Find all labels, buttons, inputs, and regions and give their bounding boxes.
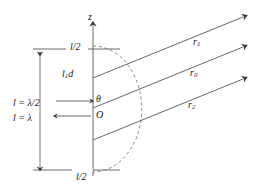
figure-canvas: [0, 0, 259, 185]
z-axis-label: z: [88, 12, 92, 22]
ray-middle-label: r0: [190, 68, 197, 78]
ray-lines-group: [93, 17, 243, 140]
ray-lower-label: r2: [188, 100, 195, 110]
element-length-label: l1d: [62, 69, 73, 79]
ray-lower-line: [93, 79, 243, 140]
dimension-label-full-wavelength: l = λ: [13, 113, 32, 123]
antenna-geometry-figure: z l/2 l/2 l1d θ O l = λ/2 l = λ r1 r0 r2: [0, 0, 259, 185]
top-half-length-label: l/2: [70, 42, 81, 52]
bottom-half-length-label: l/2: [76, 172, 87, 182]
theta-angle-label: θ: [96, 94, 101, 104]
ray-upper-label: r1: [193, 37, 200, 47]
origin-label: O: [96, 110, 103, 120]
ray-lower-sub: 2: [192, 103, 195, 110]
ray-middle-sub: 0: [194, 71, 197, 78]
ray-middle-line: [93, 47, 243, 108]
ray-upper-sub: 1: [197, 40, 200, 47]
dimension-label-half-wavelength: l = λ/2: [13, 98, 40, 108]
tick-marks-group: [33, 49, 120, 170]
element-length-suffix: d: [68, 68, 73, 79]
angle-indicator-group: [56, 101, 91, 116]
ray-upper-line: [93, 17, 243, 78]
